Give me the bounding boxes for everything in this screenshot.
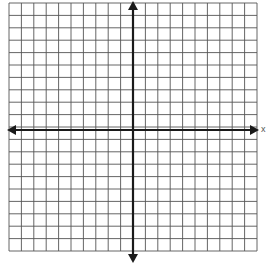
arrow-left-icon — [7, 125, 16, 135]
arrow-up-icon — [128, 1, 138, 10]
arrow-right-icon — [250, 125, 259, 135]
x-axis-label: x — [261, 124, 266, 134]
arrow-down-icon — [128, 254, 138, 263]
coordinate-plane — [0, 0, 270, 270]
